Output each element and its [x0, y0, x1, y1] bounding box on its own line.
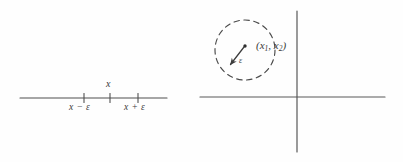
point-label-close: ) — [282, 39, 286, 51]
point-label-mid: , x — [268, 39, 278, 51]
coordinate-plane-panel — [200, 11, 385, 152]
label-point-coordinates: (x1, x2) — [256, 40, 286, 51]
epsilon-neighborhood-figure — [0, 0, 403, 162]
label-x-minus-epsilon: x − ε — [69, 103, 90, 113]
label-x-plus-epsilon: x + ε — [124, 103, 145, 113]
figure-root: x x − ε x + ε ε (x1, x2) — [0, 0, 403, 162]
label-epsilon-radius: ε — [239, 57, 242, 65]
point-label-sub-1: 1 — [265, 44, 269, 53]
point-label-sub-2: 2 — [279, 44, 283, 53]
point-label-open: (x — [256, 39, 265, 51]
label-x-center: x — [106, 79, 110, 89]
